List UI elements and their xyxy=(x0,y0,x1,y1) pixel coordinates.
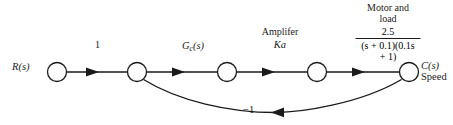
motor-transfer-function: 2.5 (s + 0.1)(0.1s + 1) xyxy=(356,26,421,62)
motor-transfer-denominator: (s + 0.1)(0.1s + 1) xyxy=(356,40,421,62)
arrowhead-summing-controller xyxy=(172,68,185,77)
node-controller[interactable] xyxy=(218,63,237,82)
amplifier-caption-gain: Ka xyxy=(274,39,286,50)
node-label-output: C(s) xyxy=(421,60,439,71)
amplifier-caption-title: Amplifer xyxy=(262,27,299,38)
motor-transfer-fraction-bar xyxy=(356,38,421,39)
node-label-input: R(s) xyxy=(12,61,30,72)
motor-transfer-numerator: 2.5 xyxy=(356,26,421,37)
node-input[interactable] xyxy=(48,63,67,82)
node-label-output-speed: Speed xyxy=(421,71,447,82)
motor-caption-line-2: load xyxy=(379,14,396,25)
arrowhead-controller-amplifier xyxy=(262,68,275,77)
signal-flow-graph-figure: R(s) C(s) Speed 1 Gc(s) −1 Amplifer Ka M… xyxy=(0,0,453,125)
node-output[interactable] xyxy=(400,63,419,82)
feedback-curve xyxy=(144,80,402,113)
arrowhead-input-summing xyxy=(86,68,99,77)
motor-caption-line-1: Motor and xyxy=(367,3,409,14)
arrowhead-amplifier-output xyxy=(352,68,365,77)
branch-gain-unity: 1 xyxy=(95,40,100,51)
controller-argument: (s) xyxy=(193,40,204,51)
arrowhead-feedback xyxy=(271,108,284,118)
node-summing[interactable] xyxy=(128,63,147,82)
controller-symbol: G xyxy=(182,40,190,51)
branch-gain-controller: Gc(s) xyxy=(182,40,204,53)
feedback-branch xyxy=(144,80,402,113)
branch-gain-feedback: −1 xyxy=(243,104,254,115)
node-amplifier[interactable] xyxy=(308,63,327,82)
